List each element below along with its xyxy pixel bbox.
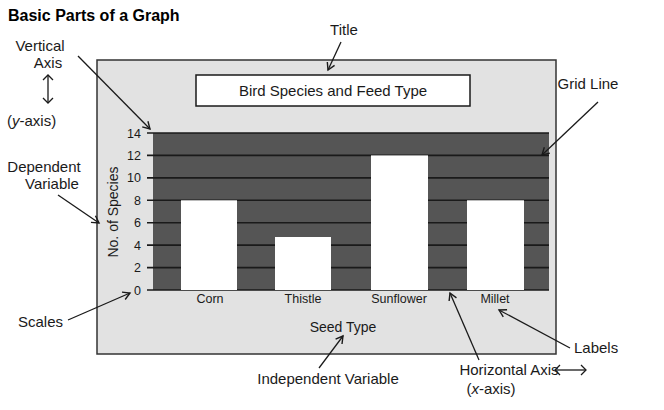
y-tick-label: 8 (134, 194, 141, 208)
bar-corn (181, 200, 237, 290)
annotation-y-axis: (y-axis) (7, 112, 56, 129)
bar-millet (467, 200, 524, 290)
category-label: Millet (480, 292, 510, 306)
y-tick-label: 12 (127, 149, 141, 163)
chart-title: Bird Species and Feed Type (239, 82, 427, 99)
annotation-dependent-line2: Variable (25, 175, 79, 192)
y-tick-label: 10 (127, 171, 141, 185)
annotation-scales: Scales (18, 313, 63, 330)
y-tick-label: 6 (134, 216, 141, 230)
annotation-independent-variable: Independent Variable (257, 370, 399, 387)
x-axis-label: Seed Type (310, 319, 377, 335)
page-heading: Basic Parts of a Graph (8, 7, 180, 24)
y-axis-label: No. of Species (105, 166, 121, 257)
category-label: Thistle (285, 292, 322, 306)
annotation-dependent-line1: Dependent (7, 158, 81, 175)
annotation-vertical-axis-line2: Axis (34, 54, 62, 71)
bar-sunflower (371, 155, 428, 290)
y-tick-label: 4 (134, 239, 141, 253)
annotation-labels: Labels (574, 339, 618, 356)
left-right-arrow-icon (555, 365, 586, 375)
annotation-horizontal-axis: Horizontal Axis (459, 361, 558, 378)
y-tick-label: 0 (134, 284, 141, 298)
category-label: Sunflower (371, 292, 427, 306)
y-tick-label: 14 (127, 127, 141, 141)
category-label: Corn (196, 292, 223, 306)
y-tick-label: 2 (134, 261, 141, 275)
arrow-icon (58, 195, 99, 223)
bar-thistle (275, 237, 331, 290)
annotation-grid-line: Grid Line (558, 75, 619, 92)
annotation-vertical-axis-line1: Vertical (15, 37, 64, 54)
up-down-arrow-icon (43, 75, 53, 103)
graph-parts-diagram: Basic Parts of a Graph Bird Species and … (0, 0, 664, 410)
annotation-title: Title (330, 21, 358, 38)
annotation-x-axis: (x-axis) (466, 380, 515, 397)
